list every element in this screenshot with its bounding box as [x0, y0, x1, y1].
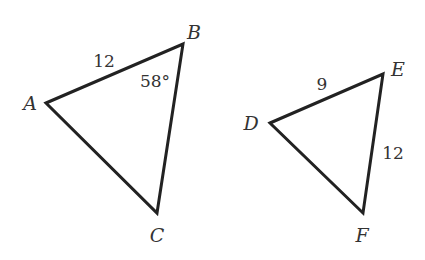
- side-ab-length: 12: [93, 51, 115, 71]
- angle-b-measure: 58°: [140, 71, 170, 91]
- side-ef-length: 12: [382, 143, 404, 163]
- diagram-canvas: A B C 12 58° D E F 9 12: [0, 0, 425, 260]
- vertex-label-b: B: [186, 21, 201, 43]
- vertex-label-e: E: [390, 58, 405, 80]
- vertex-label-d: D: [242, 112, 258, 134]
- triangle-def: D E F 9 12: [242, 58, 405, 246]
- vertex-label-a: A: [21, 92, 37, 114]
- triangle-abc: A B C 12 58°: [21, 21, 201, 246]
- side-de-length: 9: [317, 74, 328, 94]
- vertex-label-c: C: [150, 224, 165, 246]
- triangles-figure: A B C 12 58° D E F 9 12: [0, 0, 425, 260]
- vertex-label-f: F: [354, 224, 369, 246]
- triangle-def-outline: [270, 74, 383, 213]
